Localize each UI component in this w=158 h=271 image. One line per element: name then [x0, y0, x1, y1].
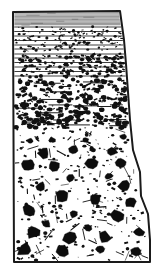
stratigraphic-column-figure [0, 0, 158, 271]
stratigraphic-column-svg [0, 0, 158, 271]
